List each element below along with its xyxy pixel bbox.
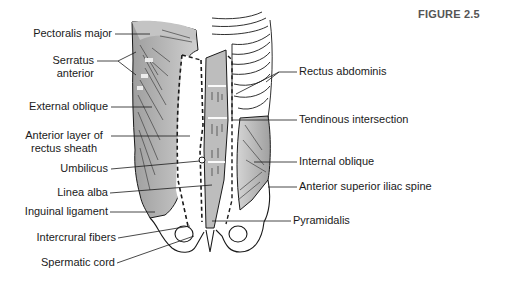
label-anterior-superior-iliac-spine: Anterior superior iliac spine (299, 180, 432, 193)
label-rectus-sheath-line1: Anterior layer of (18, 129, 110, 142)
label-serratus-line2: anterior (40, 67, 94, 80)
label-anterior-layer-rectus-sheath: Anterior layer of rectus sheath (18, 129, 110, 155)
label-serratus-line1: Serratus (40, 54, 94, 67)
label-internal-oblique: Internal oblique (299, 155, 374, 168)
label-rectus-sheath-line2: rectus sheath (18, 142, 110, 155)
label-pectoralis-major: Pectoralis major (20, 27, 112, 40)
label-tendinous-intersection: Tendinous intersection (299, 113, 408, 126)
label-intercrural-fibers: Intercrural fibers (10, 231, 116, 244)
label-inguinal-ligament: Inguinal ligament (2, 205, 108, 218)
rectus-abdominis-muscle (199, 50, 232, 228)
internal-oblique-muscle (237, 116, 270, 210)
label-umbilicus: Umbilicus (30, 162, 108, 175)
label-linea-alba: Linea alba (30, 186, 108, 199)
label-serratus-anterior: Serratus anterior (40, 54, 94, 80)
label-pyramidalis: Pyramidalis (293, 214, 350, 227)
label-spermatic-cord: Spermatic cord (20, 256, 115, 269)
label-rectus-abdominis: Rectus abdominis (299, 65, 386, 78)
label-external-oblique: External oblique (10, 100, 108, 113)
